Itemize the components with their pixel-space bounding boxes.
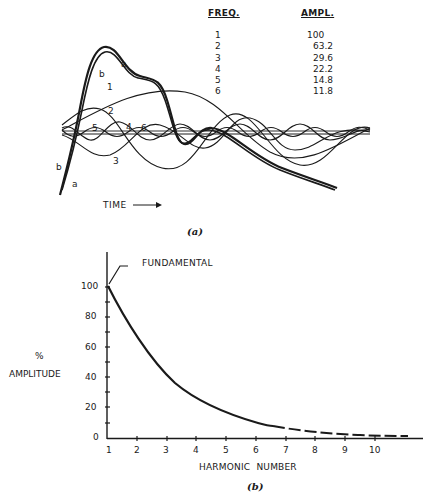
y-tick-label: 0 — [93, 432, 99, 442]
fundamental-leader — [109, 266, 128, 284]
ylabel-amplitude: AMPLITUDE — [9, 369, 61, 379]
x-tick-label: 2 — [134, 445, 140, 455]
fundamental-annotation: FUNDAMENTAL — [142, 258, 213, 268]
decay-curve — [108, 286, 273, 426]
caption-b: (b) — [247, 481, 263, 492]
y-tick-label: 40 — [85, 372, 96, 382]
y-tick-label: 20 — [85, 402, 96, 412]
spectrum-plot — [0, 0, 432, 497]
x-tick-label: 5 — [223, 445, 229, 455]
x-tick-label: 6 — [253, 445, 259, 455]
x-tick-label: 7 — [283, 445, 289, 455]
x-tick-label: 1 — [106, 445, 112, 455]
ylabel-percent: % — [35, 351, 44, 361]
x-tick-label: 9 — [342, 445, 348, 455]
decay-curve-dashed — [273, 426, 408, 436]
y-tick-label: 80 — [85, 311, 96, 321]
y-tick-label: 60 — [85, 342, 96, 352]
x-tick-label: 10 — [369, 445, 380, 455]
y-tick-label: 100 — [81, 281, 98, 291]
xlabel: HARMONIC NUMBER — [199, 462, 297, 472]
x-tick-label: 8 — [312, 445, 318, 455]
x-tick-label: 3 — [163, 445, 169, 455]
x-tick-label: 4 — [193, 445, 199, 455]
